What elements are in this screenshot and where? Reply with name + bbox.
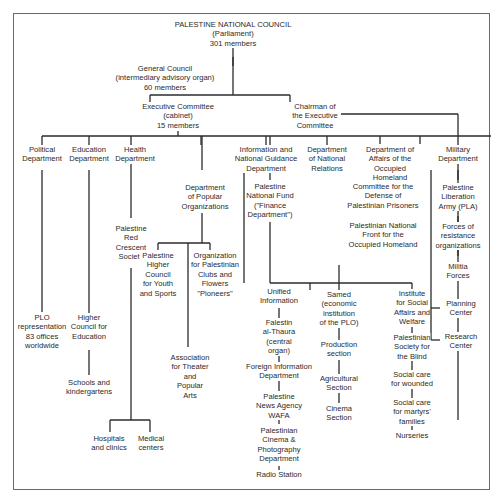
node-national-front: Palestinian National Front for the Occup… <box>349 221 418 249</box>
node-executive-committee: Executive Committee (cabinet) 15 members <box>142 102 214 130</box>
node-education-department: Education Department <box>69 145 109 164</box>
node-blind-society: Palestinian Society for the Blind <box>393 333 430 361</box>
node-unified-information: Unified Information <box>260 287 298 306</box>
node-falestin-al-thaura: Falestin al-Thaura (central organ) <box>263 318 296 356</box>
node-cinema-section: Cinema Section <box>326 404 352 423</box>
node-samed: Samed (economic institution of the PLO) <box>320 290 359 328</box>
node-schools: Schools and kindergartens <box>66 378 112 397</box>
node-research-center: Research Center <box>445 332 478 351</box>
node-foreign-information: Foreign Information Department <box>246 362 312 381</box>
node-national-fund: Palestine National Fund ("Finance Depart… <box>246 182 293 220</box>
node-higher-council-education: Higher Council for Education <box>71 313 107 341</box>
node-information-department: Information and National Guidance Depart… <box>235 145 297 173</box>
node-martyrs-families-care: Social care for martyrs' families <box>393 398 431 426</box>
node-chairman: Chairman of the Executive Committee <box>292 102 338 130</box>
node-political-department: Political Department <box>22 145 62 164</box>
node-agricultural-section: Agricultural Section <box>320 374 358 393</box>
node-popular-organizations: Department of Popular Organizations <box>182 183 229 211</box>
node-wounded-care: Social care for wounded <box>391 370 433 389</box>
node-cinema-photography: Palestinian Cinema & Photography Departm… <box>257 426 300 464</box>
node-production-section: Production section <box>321 340 357 359</box>
node-militia-forces: Militia Forces <box>446 262 469 281</box>
node-planning-center: Planning Center <box>446 299 476 318</box>
node-resistance-forces: Forces of resistance organizations <box>435 222 480 250</box>
node-medical-centers: Medical centers <box>138 434 164 453</box>
node-hospitals: Hospitals and clinics <box>91 434 126 453</box>
node-nurseries: Nurseries <box>396 431 429 440</box>
node-health-department: Health Department <box>115 145 155 164</box>
node-theater-association: Association for Theater and Popular Arts <box>171 353 210 400</box>
node-palestine-national-council: PALESTINE NATIONAL COUNCIL (Parliament) … <box>175 20 292 48</box>
node-occupied-homeland: Department of Affairs of the Occupied Ho… <box>366 145 414 183</box>
connector-lines <box>0 0 504 504</box>
node-military-department: Military Department <box>438 145 478 164</box>
node-pla: Palestine Liberation Army (PLA) <box>438 183 477 211</box>
node-clubs-organization: Organization for Palestinian Clubs and F… <box>191 251 239 298</box>
node-prisoners-committee: Committee for the Defense of Palestinian… <box>347 182 418 210</box>
node-national-relations: Department of National Relations <box>307 145 347 173</box>
node-radio-station: Radio Station <box>256 470 302 479</box>
node-youth-council: Palestine Higher Council for Youth and S… <box>140 251 177 298</box>
node-wafa: Palestine News Agency WAFA <box>256 392 302 420</box>
node-plo-representation: PLO representation 83 offices worldwide <box>18 313 67 351</box>
node-social-affairs-institute: Institute for Social Affairs and Welfare <box>394 289 430 327</box>
node-general-council: General Council (intermediary advisory o… <box>116 64 215 92</box>
